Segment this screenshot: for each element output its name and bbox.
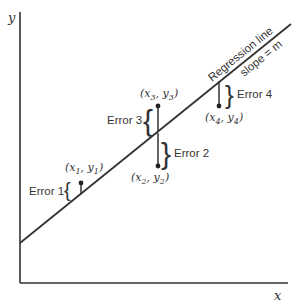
point-3-label: (x3, y3) xyxy=(140,87,178,102)
point-4-label: (x4, y4) xyxy=(205,111,243,126)
brace-icon: } xyxy=(161,137,171,170)
data-point-4: (x4, y4) } Error 4 xyxy=(205,80,273,126)
brace-icon: { xyxy=(143,104,153,137)
brace-icon: } xyxy=(225,80,234,110)
regression-diagram: y x Regression line slope = m (x1, y1) E… xyxy=(0,0,298,305)
error-2-label: Error 2 xyxy=(174,147,209,159)
error-4-label: Error 4 xyxy=(237,88,273,100)
regression-line xyxy=(20,24,291,243)
data-point-1: (x1, y1) Error 1 { xyxy=(29,161,103,201)
brace-icon: { xyxy=(64,179,71,201)
data-point-2: (x2, y2) } Error 2 xyxy=(131,133,209,186)
error-1-label: Error 1 xyxy=(29,185,64,197)
point-1-label: (x1, y1) xyxy=(65,161,103,176)
x-axis-label: x xyxy=(274,288,282,303)
y-axis-label: y xyxy=(7,10,16,25)
error-3-label: Error 3 xyxy=(107,114,142,126)
point-2-label: (x2, y2) xyxy=(131,171,169,186)
data-point-3: (x3, y3) Error 3 { xyxy=(107,87,178,137)
